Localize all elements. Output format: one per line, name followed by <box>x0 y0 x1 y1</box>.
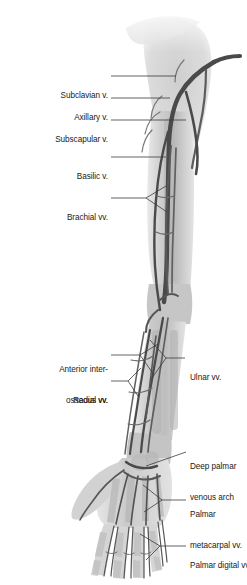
leader-palmar-digital <box>140 534 186 560</box>
label-ulnar-veins-line-1: Ulnar vv. <box>190 373 245 383</box>
label-basilic-vein-line-1: Basilic v. <box>6 172 108 182</box>
label-palmar-digital-veins-line-1: Palmar digital vv. <box>190 561 247 571</box>
label-brachial-veins-line-1: Brachial vv. <box>6 213 108 223</box>
anatomical-figure: Subclavian v. Axillary v. Subscapular v.… <box>0 0 247 585</box>
label-ulnar-veins: Ulnar vv. <box>190 352 245 404</box>
label-deep-palmar-venous-arch-line-1: Deep palmar <box>190 462 247 472</box>
label-palmar-digital-veins: Palmar digital vv. <box>190 540 247 585</box>
label-palmar-metacarpal-veins-line-1: Palmar <box>190 510 247 520</box>
subclavian-vein <box>214 56 240 62</box>
label-radial-veins: Radial vv. <box>6 375 108 427</box>
label-radial-veins-line-1: Radial vv. <box>6 396 108 406</box>
label-subscapular-vein-line-1: Subscapular v. <box>6 135 108 145</box>
label-anterior-interosseous-veins-line-1: Anterior inter- <box>6 365 108 375</box>
label-brachial-veins: Brachial vv. <box>6 192 108 244</box>
leader-radial <box>111 368 141 396</box>
